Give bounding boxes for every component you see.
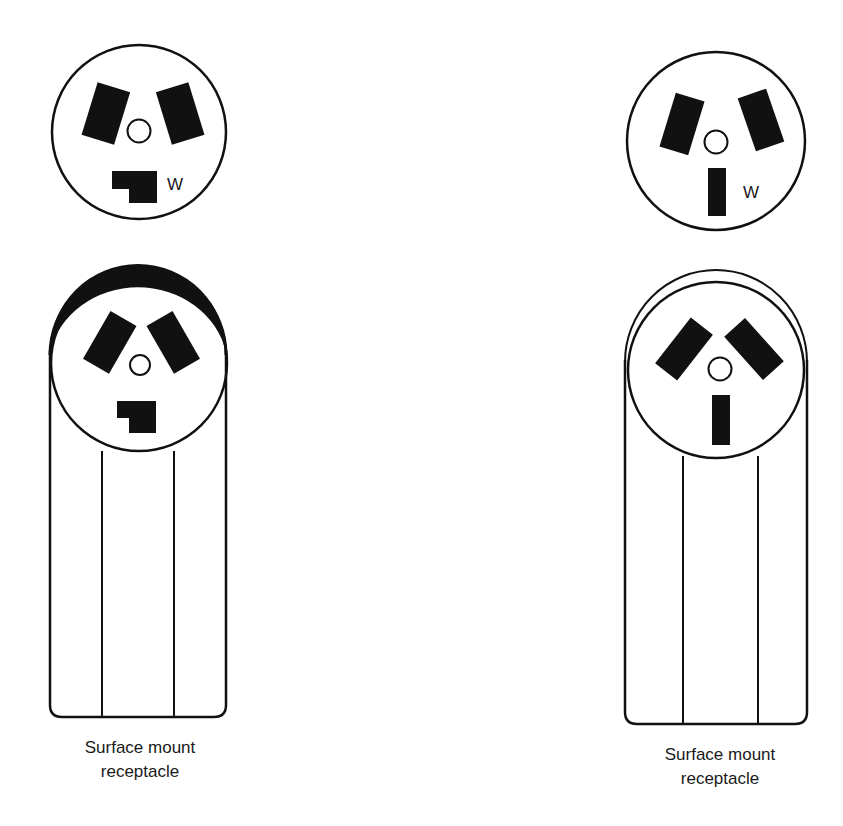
left-blade-slot — [655, 318, 713, 381]
left-blade-slot — [83, 311, 136, 374]
ground-hole — [128, 120, 151, 143]
right-blade-slot — [156, 82, 205, 145]
neutral-l-slot — [117, 401, 156, 433]
ground-hole — [709, 358, 732, 381]
left-caption: Surface mount receptacle — [40, 736, 240, 784]
neutral-straight-slot — [708, 168, 726, 216]
left-blade-slot — [82, 82, 131, 145]
right-surface-mount-receptacle — [625, 270, 807, 724]
left-receptacle-face — [52, 45, 226, 219]
receptacle-diagram — [0, 0, 843, 826]
ground-hole — [130, 355, 150, 375]
left-caption-line1: Surface mount — [40, 736, 240, 760]
right-caption: Surface mount receptacle — [620, 743, 820, 791]
neutral-l-slot — [112, 171, 157, 203]
left-blade-slot — [659, 93, 704, 155]
left-neutral-label: W — [167, 175, 183, 195]
right-receptacle-face — [627, 52, 805, 230]
right-blade-slot — [724, 318, 784, 380]
right-blade-slot — [738, 89, 785, 152]
left-caption-line2: receptacle — [40, 760, 240, 784]
right-caption-line2: receptacle — [620, 767, 820, 791]
right-caption-line1: Surface mount — [620, 743, 820, 767]
right-blade-slot — [147, 311, 200, 374]
left-surface-mount-receptacle — [50, 264, 227, 717]
neutral-straight-slot — [712, 395, 730, 445]
ground-hole — [705, 131, 728, 154]
right-neutral-label: W — [743, 183, 759, 203]
